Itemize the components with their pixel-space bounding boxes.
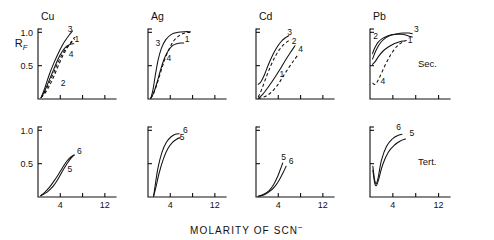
curve-label-5: 5: [409, 128, 414, 138]
curve-label-3: 3: [287, 27, 292, 37]
x-axis-title: MOLARITY OF SCN−: [190, 223, 304, 236]
panel-title-Ag: Ag: [151, 10, 164, 22]
panel-sec-Ag: 134Ag: [148, 10, 226, 99]
curve-label-4: 4: [381, 76, 386, 86]
curve-label-4: 4: [166, 53, 171, 63]
curve-label-6: 6: [396, 122, 401, 132]
x-axis-title-sup: −: [298, 223, 304, 232]
figure-root: 1234Cu134Ag1234Cd1234Pb56412564125641256…: [0, 0, 494, 240]
row-label-tert: Tert.: [418, 156, 436, 167]
curve-label-4: 4: [298, 44, 303, 54]
curve-label-4: 4: [69, 49, 74, 59]
panel-tert-Pb: 56412: [370, 122, 450, 210]
curve-label-1: 1: [185, 34, 190, 44]
y-axis-title-sub: F: [23, 43, 28, 52]
panel-tert-Cu: 56412: [38, 127, 116, 210]
curve-label-6: 6: [77, 146, 82, 156]
panel-sec-Pb: 1234Pb: [370, 10, 450, 99]
x-tick-label-12: 12: [434, 200, 444, 210]
x-tick-label-4: 4: [58, 200, 63, 210]
x-tick-label-12: 12: [100, 200, 110, 210]
panel-axes-Cd-1: [256, 127, 334, 197]
x-tick-label-4: 4: [168, 200, 173, 210]
curve-label-2: 2: [61, 78, 66, 88]
panel-tert-Cd: 56412: [256, 127, 334, 210]
curve-label-1: 1: [74, 34, 79, 44]
curve-label-3: 3: [414, 24, 419, 34]
curve-Ag-Tert-5: [154, 138, 181, 197]
curve-label-2: 2: [292, 36, 297, 46]
x-tick-label-12: 12: [318, 200, 328, 210]
y-tick-label-0-5-row0: 0.5: [20, 61, 33, 71]
panel-title-Cd: Cd: [259, 10, 273, 22]
curve-Pb-Sec-1: [373, 41, 405, 64]
curve-Pb-Sec-3: [373, 33, 413, 59]
figure-canvas: 1234Cu134Ag1234Cd1234Pb56412564125641256…: [0, 0, 494, 240]
y-tick-label-1-0-row1: 1.0: [20, 126, 33, 136]
row-label-sec: Sec.: [418, 58, 437, 69]
curve-label-1: 1: [279, 69, 284, 79]
curve-Pb-Tert-6: [373, 134, 402, 183]
curve-label-5: 5: [68, 164, 73, 174]
curve-Cd-Tert-6: [258, 166, 286, 196]
x-tick-label-4: 4: [390, 200, 395, 210]
panel-sec-Cu: 1234Cu: [38, 10, 116, 99]
y-tick-label-0-5-row1: 0.5: [20, 159, 33, 169]
panel-title-Cu: Cu: [41, 10, 55, 22]
curve-label-6: 6: [289, 156, 294, 166]
curve-label-3: 3: [156, 38, 161, 48]
y-axis-title: RF: [15, 37, 28, 52]
curve-Ag-Tert-6: [154, 134, 180, 197]
curve-label-5: 5: [281, 152, 286, 162]
x-tick-label-12: 12: [210, 200, 220, 210]
panel-sec-Cd: 1234Cd: [256, 10, 334, 99]
curve-label-6: 6: [183, 125, 188, 135]
curve-label-3: 3: [68, 24, 73, 34]
x-tick-label-4: 4: [276, 200, 281, 210]
panel-tert-Ag: 56412: [148, 125, 226, 210]
curve-label-2: 2: [373, 31, 378, 41]
panel-title-Pb: Pb: [373, 10, 386, 22]
